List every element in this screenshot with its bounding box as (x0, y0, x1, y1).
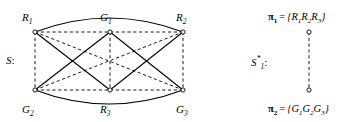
partition-pi-2: π2={G1G2G3} (268, 104, 329, 117)
graph-node-label-g2: G2 (22, 104, 34, 118)
graph-set-label: S: (6, 55, 15, 66)
partition-node-top[interactable] (307, 30, 311, 34)
partition-pi-1: π1={R1R2R3} (268, 12, 325, 25)
graph-node-label-g3: G3 (176, 104, 188, 118)
figure-root: R1G1R2G2R3G3S:S*1:π1={R1R2R3}π2={G1G2G3} (0, 0, 358, 122)
graph-node-label-g1: G1 (100, 12, 112, 26)
graph-node-label-r1: R1 (22, 12, 32, 26)
partition-layer (307, 30, 311, 92)
partition-set-label: S*1: (251, 55, 267, 70)
graph-node-label-r2: R2 (176, 12, 186, 26)
partition-node-bottom[interactable] (307, 88, 311, 92)
graph-node-label-r3: R3 (100, 104, 110, 118)
